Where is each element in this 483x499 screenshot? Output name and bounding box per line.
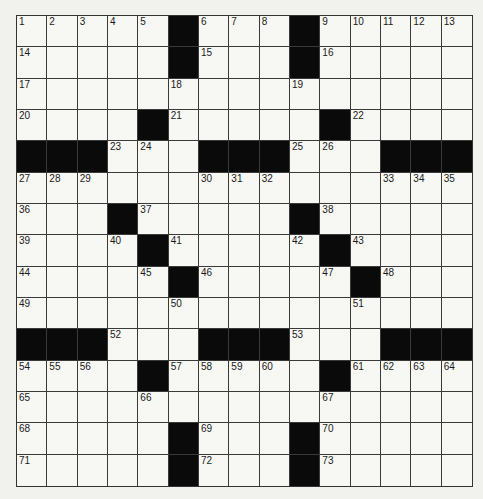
grid-cell[interactable]: 54 <box>17 361 47 392</box>
grid-cell[interactable] <box>411 392 441 423</box>
grid-cell[interactable] <box>411 298 441 329</box>
grid-cell[interactable] <box>260 204 290 235</box>
grid-cell[interactable] <box>169 204 199 235</box>
grid-cell[interactable] <box>199 204 229 235</box>
grid-cell[interactable] <box>78 423 108 454</box>
grid-cell[interactable]: 22 <box>351 110 381 141</box>
grid-cell[interactable]: 2 <box>47 16 77 47</box>
grid-cell[interactable] <box>47 79 77 110</box>
grid-cell[interactable]: 55 <box>47 361 77 392</box>
grid-cell[interactable]: 66 <box>138 392 168 423</box>
grid-cell[interactable]: 6 <box>199 16 229 47</box>
grid-cell[interactable] <box>229 423 259 454</box>
grid-cell[interactable]: 7 <box>229 16 259 47</box>
grid-cell[interactable] <box>320 329 350 360</box>
grid-cell[interactable] <box>169 329 199 360</box>
grid-cell[interactable] <box>229 47 259 78</box>
grid-cell[interactable] <box>381 79 411 110</box>
grid-cell[interactable] <box>351 204 381 235</box>
grid-cell[interactable]: 28 <box>47 173 77 204</box>
grid-cell[interactable]: 20 <box>17 110 47 141</box>
grid-cell[interactable] <box>351 173 381 204</box>
grid-cell[interactable]: 64 <box>442 361 472 392</box>
grid-cell[interactable]: 36 <box>17 204 47 235</box>
grid-cell[interactable] <box>108 423 138 454</box>
grid-cell[interactable]: 38 <box>320 204 350 235</box>
grid-cell[interactable]: 43 <box>351 235 381 266</box>
grid-cell[interactable]: 15 <box>199 47 229 78</box>
grid-cell[interactable] <box>381 423 411 454</box>
grid-cell[interactable]: 13 <box>442 16 472 47</box>
grid-cell[interactable] <box>199 392 229 423</box>
grid-cell[interactable]: 67 <box>320 392 350 423</box>
grid-cell[interactable] <box>138 298 168 329</box>
grid-cell[interactable] <box>108 47 138 78</box>
grid-cell[interactable]: 8 <box>260 16 290 47</box>
grid-cell[interactable] <box>78 204 108 235</box>
grid-cell[interactable] <box>47 47 77 78</box>
grid-cell[interactable] <box>351 392 381 423</box>
grid-cell[interactable]: 31 <box>229 173 259 204</box>
grid-cell[interactable] <box>229 79 259 110</box>
grid-cell[interactable] <box>138 173 168 204</box>
grid-cell[interactable] <box>199 298 229 329</box>
grid-cell[interactable] <box>290 392 320 423</box>
grid-cell[interactable] <box>442 423 472 454</box>
grid-cell[interactable]: 26 <box>320 141 350 172</box>
grid-cell[interactable] <box>411 47 441 78</box>
grid-cell[interactable]: 4 <box>108 16 138 47</box>
grid-cell[interactable] <box>47 298 77 329</box>
grid-cell[interactable] <box>229 298 259 329</box>
grid-cell[interactable] <box>411 79 441 110</box>
grid-cell[interactable]: 73 <box>320 455 350 486</box>
grid-cell[interactable]: 70 <box>320 423 350 454</box>
grid-cell[interactable]: 1 <box>17 16 47 47</box>
grid-cell[interactable] <box>260 298 290 329</box>
grid-cell[interactable] <box>381 110 411 141</box>
grid-cell[interactable]: 71 <box>17 455 47 486</box>
grid-cell[interactable] <box>351 423 381 454</box>
grid-cell[interactable]: 51 <box>351 298 381 329</box>
grid-cell[interactable]: 23 <box>108 141 138 172</box>
grid-cell[interactable]: 35 <box>442 173 472 204</box>
grid-cell[interactable]: 61 <box>351 361 381 392</box>
grid-cell[interactable] <box>442 204 472 235</box>
grid-cell[interactable] <box>381 235 411 266</box>
grid-cell[interactable]: 48 <box>381 267 411 298</box>
grid-cell[interactable]: 21 <box>169 110 199 141</box>
grid-cell[interactable] <box>351 455 381 486</box>
grid-cell[interactable] <box>411 110 441 141</box>
grid-cell[interactable]: 50 <box>169 298 199 329</box>
grid-cell[interactable] <box>47 392 77 423</box>
grid-cell[interactable] <box>442 298 472 329</box>
grid-cell[interactable] <box>381 204 411 235</box>
grid-cell[interactable]: 29 <box>78 173 108 204</box>
grid-cell[interactable] <box>78 267 108 298</box>
grid-cell[interactable] <box>108 110 138 141</box>
grid-cell[interactable] <box>260 235 290 266</box>
grid-cell[interactable] <box>442 392 472 423</box>
grid-cell[interactable] <box>290 173 320 204</box>
grid-cell[interactable] <box>108 298 138 329</box>
grid-cell[interactable]: 58 <box>199 361 229 392</box>
grid-cell[interactable]: 37 <box>138 204 168 235</box>
grid-cell[interactable] <box>290 361 320 392</box>
grid-cell[interactable]: 63 <box>411 361 441 392</box>
grid-cell[interactable]: 52 <box>108 329 138 360</box>
grid-cell[interactable] <box>78 79 108 110</box>
grid-cell[interactable] <box>199 235 229 266</box>
grid-cell[interactable] <box>138 47 168 78</box>
grid-cell[interactable] <box>229 235 259 266</box>
grid-cell[interactable] <box>78 298 108 329</box>
grid-cell[interactable] <box>47 235 77 266</box>
grid-cell[interactable]: 10 <box>351 16 381 47</box>
grid-cell[interactable]: 72 <box>199 455 229 486</box>
grid-cell[interactable]: 46 <box>199 267 229 298</box>
grid-cell[interactable]: 24 <box>138 141 168 172</box>
grid-cell[interactable] <box>411 455 441 486</box>
grid-cell[interactable] <box>78 235 108 266</box>
grid-cell[interactable] <box>260 455 290 486</box>
grid-cell[interactable] <box>138 329 168 360</box>
grid-cell[interactable] <box>169 141 199 172</box>
grid-cell[interactable] <box>229 204 259 235</box>
